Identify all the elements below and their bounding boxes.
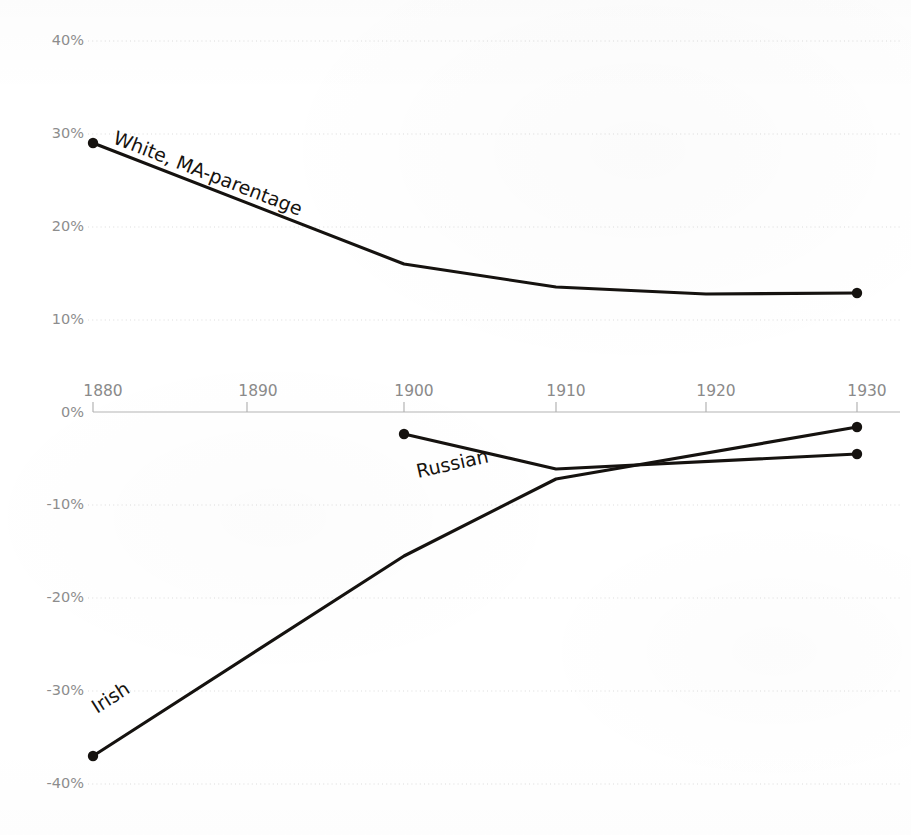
ytick-label-minus-30: -30% <box>47 682 84 698</box>
ytick-label-30: 30% <box>52 125 84 141</box>
ytick-label-40: 40% <box>52 32 84 48</box>
ytick-label-minus-20: -20% <box>47 589 84 605</box>
xtick-label-1910: 1910 <box>546 382 585 400</box>
series-endpoint-russian-1900 <box>399 429 409 439</box>
series-irish: Irish <box>87 422 862 761</box>
x-axis-group <box>93 402 900 412</box>
x-axis-tick-labels: 1880 1890 1900 1910 1920 1930 <box>83 382 886 400</box>
series-endpoint-russian-1930 <box>852 449 862 459</box>
xtick-label-1930: 1930 <box>847 382 886 400</box>
series-endpoint-irish-1930 <box>852 422 862 432</box>
series-endpoint-white-1930 <box>852 288 862 298</box>
y-axis-tick-labels: 40% 30% 20% 10% 0% -10% -20% -30% -40% <box>47 32 84 791</box>
series-label-irish: Irish <box>87 677 133 717</box>
chart-container: 40% 30% 20% 10% 0% -10% -20% -30% -40% 1… <box>0 0 911 835</box>
series-endpoint-irish-1880 <box>88 751 98 761</box>
series-endpoint-white-1880 <box>88 138 98 148</box>
series-line-irish <box>93 427 857 756</box>
series-white-ma-parentage: White, MA-parentage <box>88 126 862 298</box>
xtick-label-1890: 1890 <box>238 382 277 400</box>
xtick-label-1880: 1880 <box>83 382 122 400</box>
line-chart-plot: 40% 30% 20% 10% 0% -10% -20% -30% -40% 1… <box>0 0 911 835</box>
series-label-russian: Russian <box>414 445 490 482</box>
ytick-label-10: 10% <box>52 311 84 327</box>
ytick-label-20: 20% <box>52 218 84 234</box>
ytick-label-minus-40: -40% <box>47 775 84 791</box>
xtick-label-1900: 1900 <box>394 382 433 400</box>
series-label-white: White, MA-parentage <box>111 126 306 219</box>
xtick-label-1920: 1920 <box>696 382 735 400</box>
ytick-label-minus-10: -10% <box>47 496 84 512</box>
ytick-label-0: 0% <box>61 404 84 420</box>
